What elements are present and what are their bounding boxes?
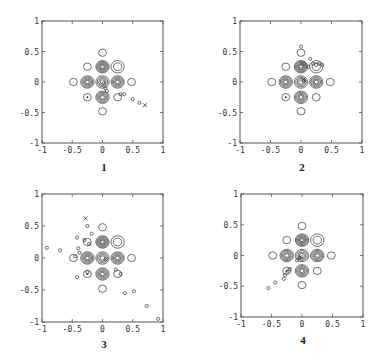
end-x-marker — [299, 255, 303, 259]
subplot-caption-3: 3 — [94, 338, 114, 350]
y-tick-label: -1 — [228, 313, 238, 322]
x-tick-label: 1 — [361, 320, 366, 329]
x-tick-label: 0 — [300, 320, 305, 329]
x-tick-label: 0.5 — [325, 320, 340, 329]
subplot-caption-1: 1 — [94, 161, 114, 173]
y-tick-label: 0.5 — [224, 221, 239, 230]
x-tick-label: -0.5 — [262, 320, 281, 329]
subplot-caption-2: 2 — [292, 161, 312, 173]
subplot-caption-4: 4 — [293, 334, 313, 346]
y-tick-label: -0.5 — [219, 282, 238, 291]
plot-area: -1-0.500.51-1-0.500.51 — [0, 0, 383, 362]
y-tick-label: 1 — [233, 190, 238, 199]
y-tick-label: 0 — [233, 252, 238, 261]
